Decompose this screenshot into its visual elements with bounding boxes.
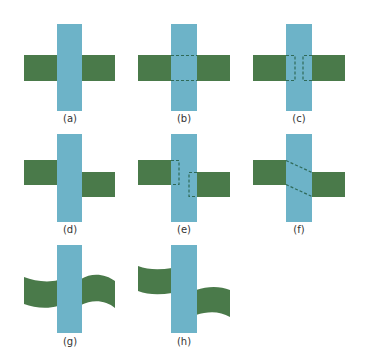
panel-c (253, 24, 345, 111)
vertical-bar (57, 134, 82, 222)
wavy-ribbon-left (24, 277, 58, 308)
horizontal-bar-right (311, 172, 345, 197)
panel-label-e: (e) (164, 224, 204, 236)
vertical-bar (57, 245, 82, 333)
panel-label-b: (b) (164, 113, 204, 125)
panel-g (24, 245, 115, 333)
panel-a (24, 24, 115, 111)
horizontal-bar-left (138, 160, 172, 185)
horizontal-bar-right (196, 172, 230, 197)
vertical-bar (286, 134, 312, 222)
panel-h (138, 245, 230, 333)
panel-label-d: (d) (50, 224, 90, 236)
panel-label-g: (g) (50, 336, 90, 348)
vertical-bar (57, 24, 82, 111)
panel-b (138, 24, 230, 111)
occlusion-diagram (0, 0, 366, 360)
vertical-bar (171, 24, 197, 111)
panel-d (24, 134, 115, 222)
horizontal-bar-left (253, 160, 287, 185)
panel-label-f: (f) (279, 224, 319, 236)
wavy-ribbon-right (196, 287, 230, 317)
panel-label-h: (h) (164, 336, 204, 348)
vertical-bar (171, 245, 197, 333)
panel-f (253, 134, 345, 222)
wavy-ribbon-left (138, 266, 172, 294)
vertical-bar (286, 24, 312, 111)
panel-label-c: (c) (279, 113, 319, 125)
panel-e (138, 134, 230, 222)
wavy-ribbon-right (81, 275, 115, 308)
horizontal-bar-left (24, 160, 58, 185)
panel-label-a: (a) (50, 113, 90, 125)
vertical-bar (171, 134, 197, 222)
horizontal-bar-right (81, 172, 115, 197)
